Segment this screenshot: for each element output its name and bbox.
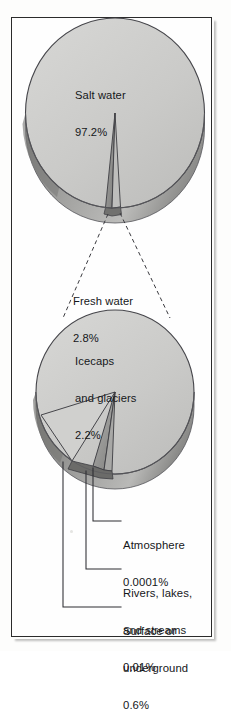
pie-label-salt-water-line1: Salt water [75, 89, 126, 101]
callout-surface-line3: 0.6% [123, 699, 188, 711]
pie-label-salt-water: Salt water 97.2% [75, 64, 126, 163]
callout-label-surface-or-underground: Surface or underground 0.6% [123, 600, 188, 713]
pie-label-salt-water-line2: 97.2% [75, 126, 126, 138]
callout-surface-line1: Surface or [123, 625, 188, 637]
paper-speck [70, 530, 73, 533]
pie-label-fresh-water-line1: Fresh water [73, 295, 133, 307]
pie-label-icecaps-line2: and glaciers [75, 392, 137, 404]
callout-rivers-line1: Rivers, lakes, [123, 587, 192, 599]
pie-label-icecaps-line1: Icecaps [75, 355, 137, 367]
pie-label-icecaps-line3: 2.2% [75, 429, 137, 441]
callout-surface-line2: underground [123, 662, 188, 674]
callout-atmosphere-line1: Atmosphere [123, 539, 185, 551]
pie-label-icecaps-glaciers: Icecaps and glaciers 2.2% [75, 330, 137, 466]
